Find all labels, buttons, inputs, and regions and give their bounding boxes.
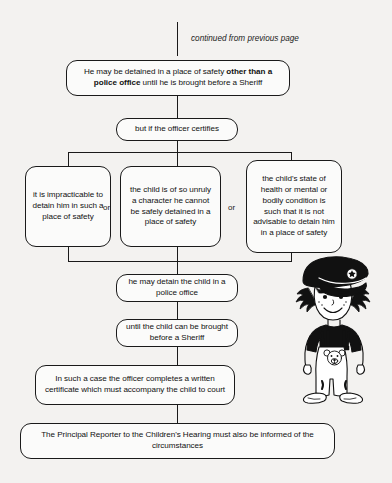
flow-node-text: the child is of so unruly a character he… (127, 185, 214, 228)
flow-node-principal-reporter: The Principal Reporter to the Children's… (20, 423, 335, 459)
flow-node-text: the child's state of health or mental or… (253, 174, 335, 238)
flow-node-text: He may be detained in a place of safety … (73, 67, 283, 88)
flow-node-text: but if the officer certifies (123, 124, 231, 135)
connector-bus-drop-left (68, 152, 69, 166)
connector-merge-center (177, 247, 178, 261)
connector-bus-to-n4 (177, 261, 178, 274)
child-in-police-cap-illustration (286, 252, 390, 404)
connector-n6-n7 (177, 405, 178, 423)
connector-merge-left (68, 247, 69, 261)
branch-label-or-1: or (103, 203, 110, 212)
flow-node-text: he may detain the child in a police offi… (123, 277, 231, 298)
continued-caption: continued from previous page (191, 34, 299, 43)
n1-bold-2: police office (94, 78, 141, 87)
flow-node-impracticable: it is impracticable to detain him in suc… (25, 166, 111, 247)
flow-node-text: In such a case the officer completes a w… (42, 374, 228, 395)
flowchart-page: continued from previous page He may be d… (0, 0, 392, 483)
flow-node-detained-place-of-safety: He may be detained in a place of safety … (66, 60, 290, 96)
connector-n4-n5 (177, 302, 178, 319)
flow-node-unruly-character: the child is of so unruly a character he… (120, 166, 221, 247)
connector-n2-bus (177, 141, 178, 152)
connector-n5-n6 (177, 347, 178, 365)
n1-post: until he is brought before a Sheriff (140, 78, 262, 87)
n1-pre: He may be detained in a place of safety (84, 67, 226, 76)
flow-node-detain-police-office: he may detain the child in a police offi… (116, 274, 238, 302)
flow-node-written-certificate: In such a case the officer completes a w… (35, 365, 235, 405)
flow-node-until-brought-before-sheriff: until the child can be brought before a … (116, 319, 238, 347)
connector-bus-drop-center (177, 152, 178, 166)
flow-node-text: The Principal Reporter to the Children's… (27, 430, 328, 451)
flow-node-officer-certifies: but if the officer certifies (116, 118, 238, 141)
connector-bus-top (68, 152, 292, 153)
connector-incoming (177, 22, 178, 56)
connector-bus-bottom (68, 261, 292, 262)
flow-node-state-of-health: the child's state of health or mental or… (246, 160, 342, 253)
branch-label-or-2: or (228, 203, 235, 212)
flow-node-text: it is impracticable to detain him in suc… (32, 190, 104, 222)
n1-bold-1: other than a (226, 67, 272, 76)
connector-n1-n2 (177, 96, 178, 118)
flow-node-text: until the child can be brought before a … (123, 322, 231, 343)
